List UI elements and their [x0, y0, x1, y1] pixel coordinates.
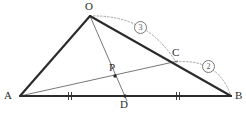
- segment-oa: [20, 16, 90, 96]
- label-o: O: [85, 1, 93, 12]
- geometry-canvas: [0, 0, 246, 113]
- arc-label-three: 3: [134, 21, 147, 34]
- segment-od: [90, 16, 127, 101]
- segment-ac: [20, 61, 178, 96]
- label-a: A: [4, 90, 12, 101]
- label-p: P: [109, 62, 115, 73]
- label-d: D: [120, 99, 128, 110]
- segment-ob: [90, 16, 231, 96]
- label-c: C: [172, 47, 179, 58]
- arc-label-two: 2: [202, 60, 215, 73]
- geometry-figure: O A B C D P 3 2: [0, 0, 246, 113]
- point-p: [113, 74, 116, 77]
- label-b: B: [235, 90, 242, 101]
